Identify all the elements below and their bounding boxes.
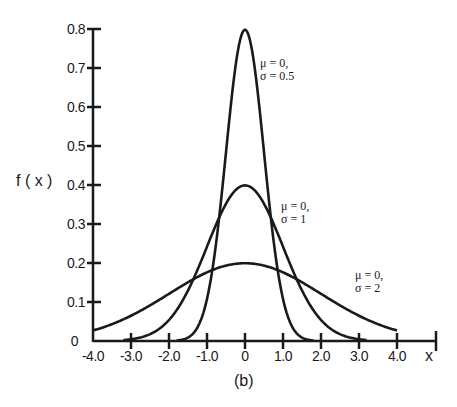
y-tick-label: 0.7 — [67, 60, 86, 76]
y-tick-label: 0.3 — [67, 216, 86, 232]
x-tick-label: 0 — [241, 348, 249, 364]
y-tick-label: 0.5 — [67, 138, 86, 154]
x-tick-label: -3.0 — [120, 348, 143, 364]
y-axis-title: f ( x ) — [16, 172, 52, 189]
y-tick-label: 0.6 — [67, 99, 86, 115]
x-tick-label: 3.0 — [350, 348, 369, 364]
x-tick-label: 4.0 — [388, 348, 407, 364]
annotation-sigma: σ = 0.5 — [260, 69, 294, 83]
x-tick-label: -1.0 — [196, 348, 219, 364]
x-tick-label: -2.0 — [158, 348, 181, 364]
annotation-mu: μ = 0, — [260, 56, 288, 70]
y-tick-label: 0 — [71, 333, 79, 349]
x-tick-label: -4.0 — [82, 348, 105, 364]
x-tick-label: 2.0 — [312, 348, 331, 364]
curve-sigma-2 — [93, 263, 397, 330]
y-tick-label: 0.8 — [67, 21, 86, 37]
annotation-sigma: σ = 1 — [281, 212, 306, 226]
y-ticks: 00.10.20.30.40.50.60.70.8 — [67, 21, 101, 349]
annotations: μ = 0,σ = 0.5μ = 0,σ = 1μ = 0,σ = 2 — [260, 56, 383, 295]
x-ticks: -4.0-3.0-2.0-1.001.02.03.04.0 — [82, 331, 436, 364]
normal-distribution-chart: 00.10.20.30.40.50.60.70.8 -4.0-3.0-2.0-1… — [0, 0, 457, 407]
figure-caption: (b) — [234, 372, 254, 389]
y-tick-label: 0.4 — [67, 177, 86, 193]
y-tick-label: 0.1 — [67, 294, 86, 310]
curves — [93, 30, 397, 341]
annotation-sigma: σ = 2 — [355, 281, 380, 295]
y-tick-label: 0.2 — [67, 255, 86, 271]
x-axis-title: x — [425, 347, 433, 364]
annotation-mu: μ = 0, — [281, 199, 309, 213]
x-tick-label: 1.0 — [274, 348, 293, 364]
annotation-mu: μ = 0, — [355, 268, 383, 282]
